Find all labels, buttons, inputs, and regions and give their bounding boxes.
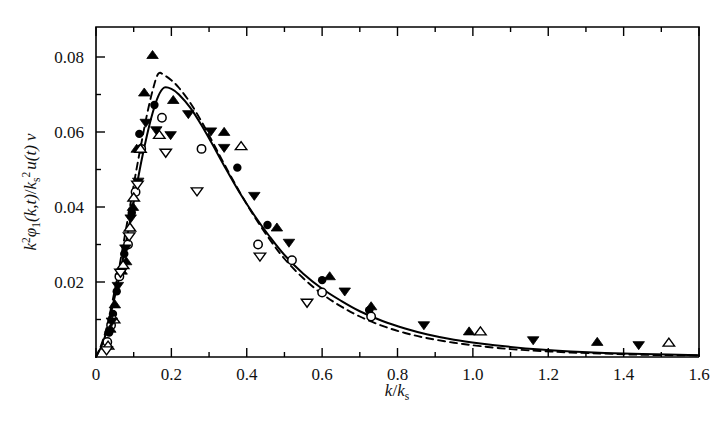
marker-open-triangle-down	[254, 253, 265, 261]
x-tick-label: 1.2	[538, 365, 559, 384]
marker-filled-circle	[263, 221, 271, 229]
scatter-plot: 00.20.40.60.81.01.21.41.6 0.020.040.060.…	[0, 0, 724, 442]
ylabel-nu: ν	[21, 133, 40, 141]
marker-filled-triangle-down	[283, 239, 295, 247]
y-tick-label: 0.02	[54, 273, 84, 292]
solid-model-curve	[96, 87, 699, 357]
marker-filled-triangle-up	[463, 327, 475, 335]
y-axis-tick-labels: 0.020.040.060.08	[54, 48, 84, 292]
y-tick-label: 0.08	[54, 48, 84, 67]
x-tick-label: 1.6	[688, 365, 709, 384]
marker-filled-triangle-down	[527, 337, 539, 345]
series-open-triangle-up	[102, 130, 674, 349]
figure-container: 00.20.40.60.81.01.21.41.6 0.020.040.060.…	[0, 0, 724, 442]
marker-open-triangle-down	[101, 347, 113, 355]
marker-filled-triangle-up	[365, 302, 377, 310]
marker-open-triangle-down	[301, 299, 313, 307]
xlabel-ks-sub: s	[405, 390, 410, 402]
marker-filled-triangle-down	[633, 342, 645, 350]
marker-filled-triangle-up	[147, 50, 159, 58]
marker-open-circle	[197, 145, 205, 153]
marker-filled-triangle-down	[339, 288, 351, 296]
marker-filled-triangle-down	[183, 111, 195, 119]
marker-open-circle	[367, 312, 375, 320]
svg-text:k2φ1(k,t)/ks2u(t)ν: k2φ1(k,t)/ks2u(t)ν	[20, 133, 42, 250]
marker-filled-circle	[150, 101, 158, 109]
marker-filled-triangle-up	[138, 88, 150, 96]
marker-filled-triangle-up	[168, 95, 180, 103]
x-tick-label: 0	[92, 365, 101, 384]
marker-open-circle	[254, 240, 262, 248]
x-tick-label: 1.0	[462, 365, 483, 384]
y-axis-title: k2φ1(k,t)/ks2u(t)ν	[20, 133, 42, 250]
marker-open-triangle-up	[475, 327, 487, 335]
marker-open-triangle-up	[663, 338, 675, 346]
marker-open-circle	[288, 256, 296, 264]
x-axis-major-ticks	[96, 27, 699, 357]
y-tick-label: 0.04	[54, 198, 84, 217]
x-axis-minor-ticks	[134, 27, 662, 357]
y-tick-label: 0.06	[54, 123, 84, 142]
marker-filled-circle	[233, 163, 241, 171]
plot-frame	[96, 27, 699, 357]
marker-filled-triangle-up	[324, 272, 336, 280]
svg-text:k/ks: k/ks	[385, 381, 410, 402]
marker-filled-triangle-up	[218, 127, 230, 135]
ylabel-ks-sup: 2	[20, 171, 32, 177]
marker-open-triangle-up	[235, 142, 247, 150]
x-axis-title: k/ks	[385, 381, 410, 402]
x-tick-label: 0.6	[312, 365, 333, 384]
x-tick-label: 0.4	[236, 365, 258, 384]
ylabel-phi: φ	[21, 228, 40, 237]
marker-filled-triangle-down	[218, 144, 230, 152]
marker-filled-triangle-up	[109, 300, 121, 308]
ylabel-arg: (k,t)	[21, 194, 40, 222]
marker-filled-triangle-up	[127, 202, 139, 210]
data-point-markers	[101, 50, 675, 354]
ylabel-ut: (t)	[21, 145, 40, 161]
marker-filled-triangle-down	[249, 192, 261, 200]
marker-open-triangle-down	[160, 149, 172, 157]
marker-open-circle	[318, 288, 326, 296]
marker-filled-triangle-down	[165, 132, 177, 140]
marker-filled-circle	[135, 130, 143, 138]
marker-open-circle	[158, 114, 166, 122]
marker-filled-triangle-down	[418, 322, 430, 330]
x-tick-label: 1.4	[613, 365, 635, 384]
marker-filled-triangle-up	[591, 337, 603, 345]
marker-filled-triangle-up	[271, 223, 283, 231]
x-tick-label: 0.2	[161, 365, 182, 384]
ylabel-u: u	[21, 161, 40, 170]
marker-open-triangle-down	[191, 188, 203, 196]
